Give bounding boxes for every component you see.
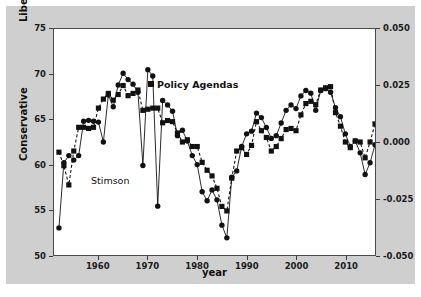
data-point-square	[333, 110, 338, 115]
series-label-policy-agendas: Policy Agendas	[157, 79, 238, 90]
data-point-square	[303, 101, 308, 106]
data-point-square	[367, 139, 372, 144]
data-point-circle	[140, 163, 145, 168]
x-tick-mark	[346, 256, 347, 260]
x-tick-label: 2000	[285, 261, 309, 271]
data-point-circle	[190, 153, 195, 158]
data-point-square	[363, 155, 368, 160]
data-point-circle	[362, 172, 367, 177]
data-point-square	[96, 106, 101, 111]
data-point-square	[288, 126, 293, 131]
data-point-circle	[81, 119, 86, 124]
data-point-circle	[76, 153, 81, 158]
data-point-square	[76, 125, 81, 130]
data-point-circle	[150, 73, 155, 78]
x-tick-mark	[296, 256, 297, 260]
data-point-square	[135, 87, 140, 92]
data-point-square	[200, 160, 205, 165]
data-point-square	[338, 124, 343, 129]
y-left-tick-label: 75	[34, 23, 46, 33]
y-right-tick-label: -0.050	[383, 251, 413, 261]
chart-canvas: Liberal Conservative year Policy Agendas…	[6, 6, 415, 284]
data-point-square	[353, 138, 358, 143]
series-label-stimson: Stimson	[91, 175, 129, 186]
y-axis-title-conservative: Conservative	[18, 87, 29, 161]
data-point-square	[125, 93, 130, 98]
data-point-square	[61, 163, 66, 168]
data-point-square	[155, 106, 160, 111]
data-point-circle	[224, 235, 229, 240]
data-point-square	[229, 176, 234, 181]
data-point-square	[234, 148, 239, 153]
data-point-square	[101, 96, 106, 101]
data-point-square	[214, 186, 219, 191]
y-right-tick-label: 0.025	[383, 80, 410, 90]
y-right-tick-label: 0.050	[383, 23, 410, 33]
data-point-square	[121, 83, 126, 88]
y-left-tick-mark	[49, 74, 53, 75]
data-point-square	[348, 145, 353, 150]
y-right-tick-mark	[376, 256, 380, 257]
data-point-circle	[204, 198, 209, 203]
x-tick-mark	[98, 256, 99, 260]
y-left-tick-label: 55	[34, 205, 46, 215]
data-point-circle	[214, 197, 219, 202]
data-point-square	[298, 112, 303, 117]
y-right-tick-mark	[376, 28, 380, 29]
series-line	[59, 86, 375, 211]
data-point-square	[190, 144, 195, 149]
x-tick-label: 1990	[235, 261, 259, 271]
y-left-tick-label: 70	[34, 69, 46, 79]
data-point-square	[86, 126, 91, 131]
data-point-square	[224, 208, 229, 213]
series-stimson	[56, 67, 375, 240]
data-point-circle	[244, 131, 249, 136]
data-point-square	[343, 139, 348, 144]
plot-area: Policy Agendas Stimson	[53, 28, 376, 256]
data-point-circle	[259, 115, 264, 120]
data-point-circle	[125, 77, 130, 82]
data-point-circle	[254, 110, 259, 115]
y-left-tick-mark	[49, 28, 53, 29]
y-left-tick-mark	[49, 165, 53, 166]
data-point-square	[195, 144, 200, 149]
y-right-tick-label: -0.025	[383, 194, 413, 204]
data-point-circle	[165, 102, 170, 107]
data-point-square	[111, 98, 116, 103]
y-right-tick-label: 0.000	[383, 137, 410, 147]
x-tick-label: 1980	[185, 261, 209, 271]
data-point-circle	[219, 222, 224, 227]
data-point-square	[239, 145, 244, 150]
series-policy-agendas	[56, 83, 375, 214]
y-right-tick-mark	[376, 85, 380, 86]
data-point-circle	[357, 150, 362, 155]
data-point-square	[205, 168, 210, 173]
data-point-circle	[338, 114, 343, 119]
data-point-circle	[264, 125, 269, 130]
y-left-tick-label: 65	[34, 114, 46, 124]
data-point-circle	[249, 128, 254, 133]
data-point-square	[170, 119, 175, 124]
x-tick-mark	[197, 256, 198, 260]
y-left-tick-label: 50	[34, 251, 46, 261]
data-point-square	[219, 204, 224, 209]
data-point-circle	[303, 88, 308, 93]
data-point-square	[254, 119, 259, 124]
data-point-square	[308, 99, 313, 104]
data-point-square	[209, 173, 214, 178]
y-axis-title-liberal: Liberal	[18, 0, 29, 22]
x-tick-label: 2010	[334, 261, 358, 271]
data-point-circle	[160, 98, 165, 103]
data-point-circle	[120, 71, 125, 76]
data-point-circle	[111, 104, 116, 109]
data-point-square	[284, 127, 289, 132]
y-right-tick-mark	[376, 199, 380, 200]
data-point-square	[81, 125, 86, 130]
data-point-circle	[116, 82, 121, 87]
data-point-circle	[96, 119, 101, 124]
data-point-circle	[333, 105, 338, 110]
data-point-square	[140, 108, 145, 113]
data-point-square	[372, 121, 375, 126]
data-point-circle	[86, 118, 91, 123]
data-point-circle	[269, 136, 274, 141]
